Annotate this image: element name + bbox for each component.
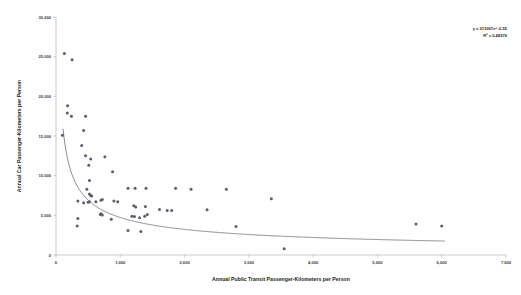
y-tick-label: 0 xyxy=(49,253,52,258)
data-point xyxy=(440,225,443,228)
x-tick-label: 0 xyxy=(55,260,58,265)
data-point xyxy=(76,200,79,203)
data-point xyxy=(174,187,177,190)
data-point xyxy=(88,179,91,182)
trendline-equation: y = 211067x^-0.55 xyxy=(473,26,508,31)
x-tick-label: 3,000 xyxy=(244,260,255,265)
data-point xyxy=(134,187,137,190)
data-point xyxy=(76,217,79,220)
data-point xyxy=(82,129,85,132)
data-point xyxy=(139,230,142,233)
x-tick-label: 1,000 xyxy=(115,260,126,265)
x-tick-label: 5,000 xyxy=(372,260,383,265)
data-point xyxy=(82,201,85,204)
data-point xyxy=(89,158,92,161)
data-point xyxy=(84,154,87,157)
data-point xyxy=(144,205,147,208)
data-point xyxy=(71,58,74,61)
data-point xyxy=(99,213,102,216)
y-tick-label: 30,000 xyxy=(38,15,51,20)
trendline xyxy=(63,129,445,241)
y-tick-label: 25,000 xyxy=(38,54,51,59)
data-point xyxy=(70,115,73,118)
data-point xyxy=(170,209,173,212)
data-point xyxy=(94,200,97,203)
data-point xyxy=(101,198,104,201)
data-point xyxy=(66,111,69,114)
x-axis: 01,0002,0003,0004,0005,0006,0007,000 xyxy=(55,255,512,265)
data-point xyxy=(87,164,90,167)
x-tick-label: 2,000 xyxy=(179,260,190,265)
data-point xyxy=(190,188,193,191)
data-point xyxy=(415,223,418,226)
data-point xyxy=(110,218,113,221)
data-point xyxy=(235,225,238,228)
data-point xyxy=(145,187,148,190)
data-point xyxy=(133,215,136,218)
data-point xyxy=(127,229,130,232)
data-point xyxy=(206,208,209,211)
data-point xyxy=(225,188,228,191)
data-point xyxy=(90,194,93,197)
y-tick-label: 20,000 xyxy=(38,94,51,99)
y-axis-title: Annual Car Passenger-Kilometers per Pers… xyxy=(16,80,22,192)
data-point xyxy=(85,188,88,191)
data-point xyxy=(127,187,130,190)
x-tick-label: 7,000 xyxy=(501,260,512,265)
data-point xyxy=(138,216,141,219)
data-point xyxy=(111,170,114,173)
data-point xyxy=(166,209,169,212)
data-point xyxy=(116,200,119,203)
data-point xyxy=(283,247,286,250)
data-point xyxy=(63,52,66,55)
data-points-group xyxy=(61,52,443,250)
y-tick-label: 15,000 xyxy=(38,134,51,139)
trendline-r-squared: R² = 0.48376 xyxy=(483,33,508,38)
data-point xyxy=(158,208,161,211)
x-tick-label: 6,000 xyxy=(437,260,448,265)
data-point xyxy=(270,197,273,200)
data-point xyxy=(134,206,137,209)
data-point xyxy=(103,155,106,158)
data-point xyxy=(66,104,69,107)
data-point xyxy=(112,200,115,203)
data-point xyxy=(146,213,149,216)
y-axis: 05,00010,00015,00020,00025,00030,000 xyxy=(38,15,56,258)
scatter-chart: 05,00010,00015,00020,00025,00030,000 01,… xyxy=(0,0,521,295)
x-tick-label: 4,000 xyxy=(308,260,319,265)
y-tick-group: 05,00010,00015,00020,00025,00030,000 xyxy=(38,15,56,258)
y-tick-label: 5,000 xyxy=(41,213,52,218)
data-point xyxy=(130,215,133,218)
data-point xyxy=(84,115,87,118)
data-point xyxy=(80,144,83,147)
data-point xyxy=(76,225,79,228)
x-axis-title: Annual Public Transit Passenger-Kilomete… xyxy=(212,276,350,282)
chart-svg: 05,00010,00015,00020,00025,00030,000 01,… xyxy=(0,0,521,295)
x-tick-group: 01,0002,0003,0004,0005,0006,0007,000 xyxy=(55,255,512,265)
y-tick-label: 10,000 xyxy=(38,173,51,178)
data-point xyxy=(143,215,146,218)
